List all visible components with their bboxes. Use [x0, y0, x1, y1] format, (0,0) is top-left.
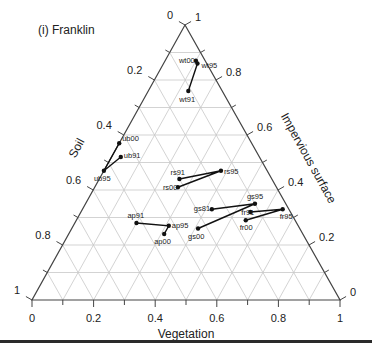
- axis-label-impervious: Impervious surface: [278, 110, 340, 206]
- tick-impervious: [309, 242, 315, 246]
- bottom-rule: [0, 340, 372, 343]
- data-point-label: ap95: [172, 221, 189, 230]
- data-point: [117, 141, 121, 145]
- data-point: [186, 89, 190, 93]
- grid-line-soil: [47, 273, 63, 301]
- tick-soil: [179, 22, 185, 26]
- tick-label-vegetation: 0.2: [86, 312, 101, 324]
- tick-impervious: [216, 77, 222, 81]
- ternary-chart: 0000.20.20.20.40.40.40.60.60.60.80.80.81…: [0, 0, 372, 355]
- data-point-label: wt95: [200, 61, 217, 70]
- tick-label-vegetation: 0.8: [271, 312, 286, 324]
- data-point-label: ub95: [94, 174, 111, 183]
- axis-label-vegetation: Vegetation: [158, 327, 215, 341]
- chart-title: (i) Franklin: [38, 23, 95, 37]
- tick-label-soil: 0: [167, 9, 173, 21]
- tick-soil: [26, 297, 32, 301]
- tick-label-vegetation: 0.6: [209, 312, 224, 324]
- tick-impervious: [232, 105, 236, 108]
- axis-label-soil: Soil: [66, 136, 88, 160]
- data-point: [119, 155, 123, 159]
- data-point: [219, 169, 223, 173]
- tick-soil: [104, 160, 108, 163]
- data-point: [253, 202, 257, 206]
- grid-line-soil: [78, 218, 125, 301]
- data-point: [162, 232, 166, 236]
- tick-soil: [57, 242, 63, 246]
- data-point: [102, 169, 106, 173]
- data-point-label: ub00: [122, 134, 139, 143]
- data-point: [134, 221, 138, 225]
- data-point-label: rs95: [224, 167, 239, 176]
- data-point-label: gs81: [194, 204, 210, 213]
- tick-label-impervious: 0.6: [257, 121, 272, 133]
- tick-label-impervious: 0.2: [319, 231, 334, 243]
- tick-label-vegetation: 0.4: [148, 312, 163, 324]
- tick-impervious: [185, 22, 191, 26]
- data-point: [196, 226, 200, 230]
- tick-label-vegetation: 0: [29, 312, 35, 324]
- tick-label-soil: 1: [14, 284, 20, 296]
- data-point-label: ub91: [124, 151, 141, 160]
- data-point-label: fr00: [240, 223, 253, 232]
- data-point: [195, 61, 199, 65]
- tick-soil: [74, 215, 78, 218]
- tick-soil: [43, 270, 47, 273]
- tick-label-impervious: 1: [195, 11, 201, 23]
- data-point: [244, 218, 248, 222]
- grid-line-vegetation: [309, 273, 324, 301]
- data-point-label: gs95: [247, 192, 263, 201]
- data-point: [177, 177, 181, 181]
- tick-label-soil: 0.4: [97, 119, 112, 131]
- data-point-label: wt91: [178, 95, 195, 104]
- tick-impervious: [340, 297, 346, 301]
- data-point: [280, 207, 284, 211]
- tick-label-impervious: 0.8: [226, 66, 241, 78]
- tick-soil: [87, 187, 93, 191]
- tick-label-soil: 0.6: [66, 174, 81, 186]
- tick-impervious: [278, 187, 284, 191]
- tick-impervious: [201, 50, 205, 53]
- tick-impervious: [294, 215, 298, 218]
- data-point-label: ap00: [154, 237, 171, 246]
- data-point-label: fr91: [241, 208, 254, 217]
- data-point-label: rs91: [170, 168, 185, 177]
- data-point-label: gs00: [188, 232, 204, 241]
- data-point: [210, 207, 214, 211]
- tick-soil: [165, 50, 169, 53]
- tick-label-soil: 0.8: [35, 229, 50, 241]
- grid-line-vegetation: [248, 218, 294, 301]
- data-point: [167, 224, 171, 228]
- tick-label-impervious: 0: [350, 286, 356, 298]
- data-point-label: fr95: [280, 212, 293, 221]
- tick-impervious: [325, 270, 329, 273]
- tick-impervious: [263, 160, 267, 163]
- tick-label-soil: 0.2: [127, 64, 142, 76]
- grid-lines: [47, 53, 324, 301]
- grid-line-vegetation: [124, 108, 231, 301]
- tick-label-vegetation: 1: [337, 312, 343, 324]
- tick-soil: [148, 77, 154, 81]
- series-line-ub: [104, 143, 121, 171]
- tick-label-impervious: 0.4: [288, 176, 303, 188]
- data-point-label: ap91: [127, 211, 144, 220]
- data-point-label: rs00: [163, 183, 178, 192]
- data-point-label: wt00: [178, 56, 195, 65]
- tick-impervious: [247, 132, 253, 136]
- tick-soil: [135, 105, 139, 108]
- series-line-wt: [188, 61, 197, 91]
